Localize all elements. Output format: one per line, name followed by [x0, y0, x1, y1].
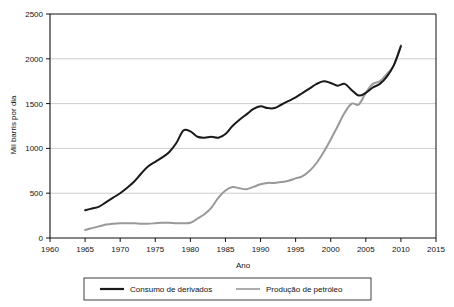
x-tick-label: 2010	[392, 245, 410, 254]
x-tick-label: 2005	[357, 245, 375, 254]
x-tick-label: 1995	[287, 245, 305, 254]
chart-legend: Consumo de derivadosProdução de petróleo	[84, 278, 371, 300]
y-tick-label: 2000	[25, 55, 43, 64]
x-axis-ticks: 1960196519701975198019851990199520002005…	[41, 238, 445, 254]
y-axis-ticks: 05001000150020002500	[25, 10, 50, 243]
y-tick-label: 0	[39, 234, 44, 243]
x-tick-label: 1980	[181, 245, 199, 254]
x-tick-label: 1960	[41, 245, 59, 254]
chart-container: 05001000150020002500 1960196519701975198…	[0, 0, 454, 307]
legend-label-1: Produção de petróleo	[266, 285, 343, 294]
y-axis-title: Mil barris por dia	[9, 95, 18, 155]
x-tick-label: 1990	[252, 245, 270, 254]
x-tick-label: 2015	[427, 245, 445, 254]
x-tick-label: 1975	[146, 245, 164, 254]
plot-frame	[50, 14, 436, 238]
y-tick-label: 1500	[25, 100, 43, 109]
y-tick-label: 1000	[25, 144, 43, 153]
x-tick-label: 1985	[217, 245, 235, 254]
x-axis-title: Ano	[236, 261, 251, 270]
y-tick-label: 2500	[25, 10, 43, 19]
x-tick-label: 2000	[322, 245, 340, 254]
gridlines	[50, 59, 436, 193]
legend-label-0: Consumo de derivados	[130, 285, 212, 294]
series-line-consumo	[85, 46, 401, 210]
x-tick-label: 1970	[111, 245, 129, 254]
x-tick-label: 1965	[76, 245, 94, 254]
series-line-producao	[85, 45, 401, 230]
line-chart: 05001000150020002500 1960196519701975198…	[0, 0, 454, 307]
series-paths	[85, 45, 401, 230]
y-tick-label: 500	[30, 189, 44, 198]
